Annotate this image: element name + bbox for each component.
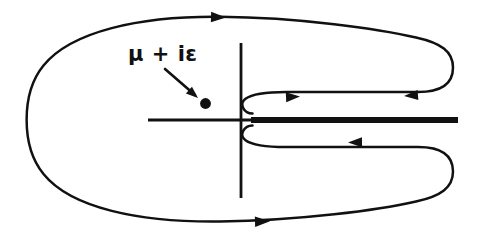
pole-marker [200,98,211,109]
pole-group [165,69,211,109]
pole-label: μ + iε [128,44,198,65]
arrow-outer-bottom [255,216,270,227]
arrow-outer-top [211,12,226,23]
contour-diagram [0,0,492,236]
figure-root: μ + iε [0,0,492,236]
axes-group [148,43,253,198]
